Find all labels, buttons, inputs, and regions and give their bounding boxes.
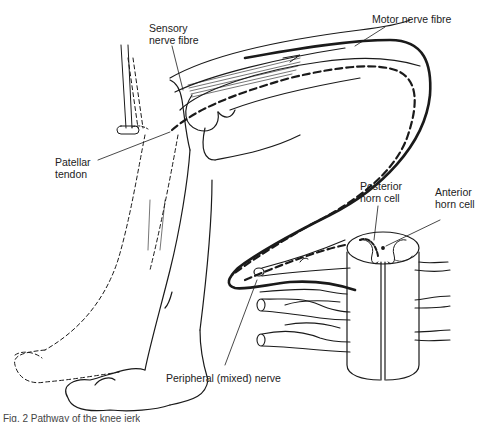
label-peripheral-line-1: Peripheral (mixed) nerve: [166, 372, 281, 384]
lower-leg-kicked-outline: [15, 135, 178, 383]
motor-nerve-path: [229, 40, 430, 290]
label-patellar-tendon: Patellar tendon: [55, 156, 91, 180]
label-posterior-line-1: Posterior: [360, 180, 402, 192]
spinal-nerve-roots-right: [415, 262, 450, 341]
lower-leg: [66, 128, 300, 411]
label-anterior-line-1: Anterior: [435, 186, 475, 198]
label-posterior-horn-cell: Posterior horn cell: [360, 180, 402, 204]
label-sensory-line-1: Sensory: [149, 22, 199, 34]
label-patellar-line-2: tendon: [55, 168, 91, 180]
label-anterior-line-2: horn cell: [435, 198, 475, 210]
label-peripheral-mixed-nerve: Peripheral (mixed) nerve: [166, 372, 281, 384]
spinal-nerve-roots-left: [257, 289, 350, 352]
reflex-arc-illustration: [0, 0, 493, 422]
spinal-cord: [347, 232, 419, 380]
label-motor-nerve-fibre: Motor nerve fibre: [372, 13, 451, 25]
reflex-hammer: [117, 45, 148, 134]
label-sensory-line-2: nerve fibre: [149, 34, 199, 46]
label-posterior-line-2: horn cell: [360, 192, 402, 204]
label-motor-line-1: Motor nerve fibre: [372, 13, 451, 25]
figure-caption: Fig. 2 Pathway of the knee jerk: [3, 413, 140, 422]
label-patellar-line-1: Patellar: [55, 156, 91, 168]
knee-jerk-reflex-diagram: Sensory nerve fibre Motor nerve fibre Pa…: [0, 0, 493, 422]
label-anterior-horn-cell: Anterior horn cell: [435, 186, 475, 210]
label-sensory-nerve-fibre: Sensory nerve fibre: [149, 22, 199, 46]
